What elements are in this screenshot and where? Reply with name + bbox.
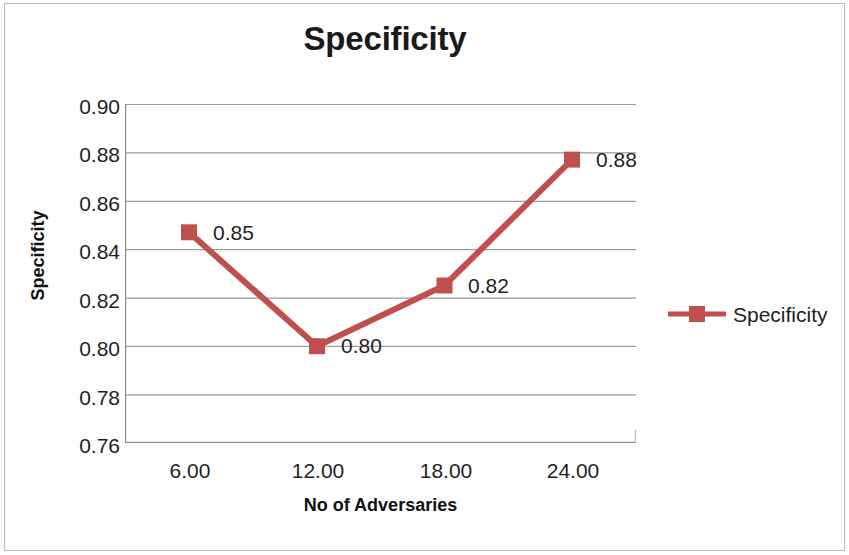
series-markers-specificity: [181, 152, 580, 355]
y-tick-label-1: 0.88: [58, 144, 120, 165]
y-tick-label-5: 0.80: [58, 338, 120, 359]
data-label-3: 0.88: [596, 149, 637, 170]
plot-canvas: [125, 104, 636, 443]
chart-screenshot: Specificity Specificity No of Adversarie…: [0, 0, 849, 555]
x-tick-label-0: 6.00: [126, 460, 254, 481]
y-axis-title: Specificity: [28, 196, 49, 316]
y-tick-label-0: 0.90: [58, 96, 120, 117]
y-tick-label-2: 0.86: [58, 193, 120, 214]
legend-key-icon: [668, 303, 726, 325]
legend: Specificity: [668, 303, 828, 325]
legend-label-specificity: Specificity: [733, 304, 828, 325]
data-label-1: 0.80: [341, 335, 382, 356]
data-label-0: 0.85: [213, 222, 254, 243]
x-tick-label-2: 18.00: [382, 460, 510, 481]
chart-title: Specificity: [130, 20, 640, 58]
x-tick-label-1: 12.00: [254, 460, 382, 481]
y-tick-label-6: 0.78: [58, 387, 120, 408]
data-label-2: 0.82: [468, 275, 509, 296]
plot-area: [125, 104, 636, 443]
y-tick-label-4: 0.82: [58, 290, 120, 311]
data-point-marker-1: [309, 338, 325, 354]
x-axis-title: No of Adversaries: [125, 495, 636, 516]
data-point-marker-2: [437, 278, 453, 294]
y-tick-label-3: 0.84: [58, 241, 120, 262]
y-tick-label-7: 0.76: [58, 435, 120, 456]
data-point-marker-0: [181, 224, 197, 240]
data-point-marker-3: [564, 152, 580, 168]
series-line-specificity: [189, 160, 572, 347]
x-tick-label-3: 24.00: [509, 460, 637, 481]
